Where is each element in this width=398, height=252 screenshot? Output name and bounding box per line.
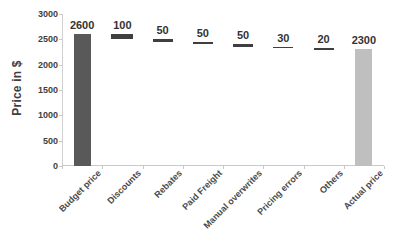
bar-rebates[interactable]: [153, 39, 173, 42]
bar-value-label: 20: [318, 33, 330, 45]
bar-budget-price[interactable]: [74, 34, 91, 166]
x-tick-mark: [384, 166, 385, 169]
bar-value-label: 50: [197, 27, 209, 39]
x-axis-label-budget-price: Budget price: [57, 168, 103, 214]
x-axis-label-actual-price: Actual price: [341, 168, 385, 212]
bar-value-label: 30: [277, 32, 289, 44]
x-axis-label-paid-freight: Paid Freight: [180, 168, 224, 212]
y-tick-label: 1500: [38, 85, 58, 95]
plot-area: 260010050505030202300: [62, 14, 384, 166]
y-tick-label: 2500: [38, 34, 58, 44]
bar-others[interactable]: [314, 48, 334, 50]
y-tick-label: 1000: [38, 110, 58, 120]
bar-value-label: 2600: [70, 19, 94, 31]
y-tick-label: 3000: [38, 9, 58, 19]
bar-value-label: 50: [157, 24, 169, 36]
y-axis-title: Price in $: [4, 0, 30, 175]
bar-value-label: 2300: [352, 34, 376, 46]
y-tick-label: 2000: [38, 60, 58, 70]
bar-discounts[interactable]: [111, 34, 133, 39]
y-axis-line: [62, 14, 63, 166]
bar-actual-price[interactable]: [355, 49, 372, 166]
x-axis-label-others: Others: [317, 168, 345, 196]
bar-pricing-errors[interactable]: [273, 47, 293, 49]
x-axis-label-rebates: Rebates: [152, 168, 184, 200]
x-axis-category-labels: Budget priceDiscountsRebatesPaid Freight…: [62, 168, 384, 252]
bar-value-label: 50: [237, 29, 249, 41]
y-axis-title-text: Price in $: [10, 60, 24, 115]
bar-manual-overwrites[interactable]: [233, 44, 253, 47]
waterfall-chart: Price in $ 300025002000150010005000 2600…: [0, 0, 398, 252]
y-tick-label: 0: [53, 161, 58, 171]
y-tick-label: 500: [43, 136, 58, 146]
x-axis-label-discounts: Discounts: [106, 168, 144, 206]
bar-value-label: 100: [113, 19, 131, 31]
y-axis-tick-labels: 300025002000150010005000: [28, 14, 58, 166]
bar-paid-freight[interactable]: [193, 42, 213, 45]
